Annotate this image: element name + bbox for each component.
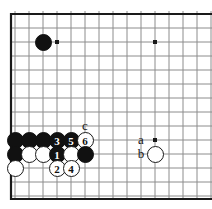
stone-white-move-4[interactable]: 4: [63, 160, 80, 177]
marker-a: a: [134, 133, 148, 147]
star-point-upper-right: [153, 40, 157, 44]
stone-white-b-point[interactable]: [147, 146, 164, 163]
star-points: [55, 40, 157, 142]
stone-white-a3[interactable]: [7, 160, 24, 177]
stone-black-f2[interactable]: [77, 146, 94, 163]
marker-b: b: [134, 147, 148, 161]
go-diagram: 356124 cab: [0, 0, 212, 209]
go-board-grid: [0, 0, 212, 209]
star-point-upper-left: [55, 40, 59, 44]
marker-c: c: [78, 119, 92, 133]
stone-black-corner-approach[interactable]: [35, 34, 52, 51]
star-point-lower-right: [153, 138, 157, 142]
